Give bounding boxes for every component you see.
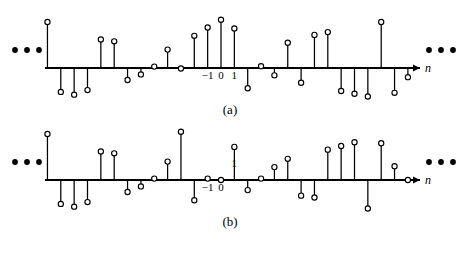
stem [72, 180, 77, 209]
tick-label-1: 1 [232, 157, 238, 169]
tick-label--1: −1 [202, 69, 214, 81]
stem-marker [72, 204, 77, 209]
stem-marker [365, 94, 370, 99]
left-ellipsis-icon [12, 47, 42, 53]
tick-label-0: 0 [218, 69, 224, 81]
stem-marker [272, 73, 277, 78]
stem [312, 180, 317, 200]
stem [192, 180, 197, 203]
stem [352, 68, 357, 96]
stem [392, 164, 397, 180]
stem-marker [392, 90, 397, 95]
stem [312, 32, 317, 68]
stem [245, 180, 250, 193]
stem [178, 66, 183, 71]
stem [165, 159, 170, 180]
stem [339, 68, 344, 94]
stem [205, 25, 210, 68]
stem-marker [258, 176, 263, 181]
stem-marker [85, 199, 90, 204]
axis-label-n: n [425, 173, 431, 187]
axis-label-n: n [425, 61, 431, 75]
stem-marker [205, 25, 210, 30]
stem-marker [192, 33, 197, 38]
stem-marker [312, 195, 317, 200]
stem-marker [152, 64, 157, 69]
stem-marker [138, 72, 143, 77]
stem-marker [325, 30, 330, 35]
stem [405, 68, 410, 80]
stem [285, 156, 290, 180]
stem [258, 64, 263, 69]
stem-marker [45, 131, 50, 136]
stem-marker [45, 19, 50, 24]
stem [232, 26, 237, 68]
stem [72, 68, 77, 97]
stem-marker [125, 189, 130, 194]
stem-marker [299, 80, 304, 85]
right-ellipsis-icon [426, 47, 456, 53]
stem-marker [245, 188, 250, 193]
stem [365, 180, 370, 211]
stem-marker [178, 66, 183, 71]
stem-marker [312, 32, 317, 37]
stem [58, 68, 63, 95]
panel-b: n−101(b) [0, 126, 465, 253]
stem-marker [339, 88, 344, 93]
stem [339, 143, 344, 180]
stem-marker [58, 201, 63, 206]
stem [112, 39, 117, 68]
stem [125, 180, 130, 195]
axis-arrow-icon [413, 176, 420, 183]
panel-caption-a: (a) [223, 102, 237, 117]
tick-label-1: 1 [232, 69, 238, 81]
stem [352, 140, 357, 180]
stem-marker [339, 143, 344, 148]
stem-marker [218, 17, 223, 22]
stem-plot-b: n−101(b) [0, 126, 465, 253]
stem [285, 40, 290, 68]
tick-label-0: 0 [218, 181, 224, 193]
stem [138, 180, 143, 189]
stem-marker [125, 77, 130, 82]
stem-marker [232, 26, 237, 31]
stem-marker [245, 86, 250, 91]
stem [245, 68, 250, 91]
stem [379, 19, 384, 68]
stem-marker [85, 87, 90, 92]
stem [405, 177, 410, 182]
stem-marker [285, 40, 290, 45]
stem-marker [232, 144, 237, 149]
stem [325, 147, 330, 180]
stem [152, 64, 157, 69]
stem-marker [152, 176, 157, 181]
tick-label--1: −1 [202, 181, 214, 193]
stem-marker [365, 206, 370, 211]
stem [272, 165, 277, 180]
stem [125, 68, 130, 83]
stem-marker [405, 75, 410, 80]
stem [45, 19, 50, 68]
right-ellipsis-icon [426, 159, 456, 165]
stem [85, 180, 90, 205]
stem [258, 176, 263, 181]
stem [379, 141, 384, 180]
stem-marker [192, 198, 197, 203]
stem-marker [258, 64, 263, 69]
stem-marker [178, 129, 183, 134]
stem [392, 68, 397, 95]
stem [85, 68, 90, 93]
stem-marker [405, 177, 410, 182]
stem-marker [165, 159, 170, 164]
stem-marker [392, 164, 397, 169]
stem [178, 129, 183, 180]
stem [58, 180, 63, 207]
stem-plot-figure: n−101(a) n−101(b) [0, 0, 465, 253]
stem [138, 68, 143, 77]
stem-marker [112, 151, 117, 156]
stem-marker [98, 149, 103, 154]
stem-marker [285, 156, 290, 161]
axis-arrow-icon [413, 64, 420, 71]
stem [192, 33, 197, 68]
stem [165, 47, 170, 68]
